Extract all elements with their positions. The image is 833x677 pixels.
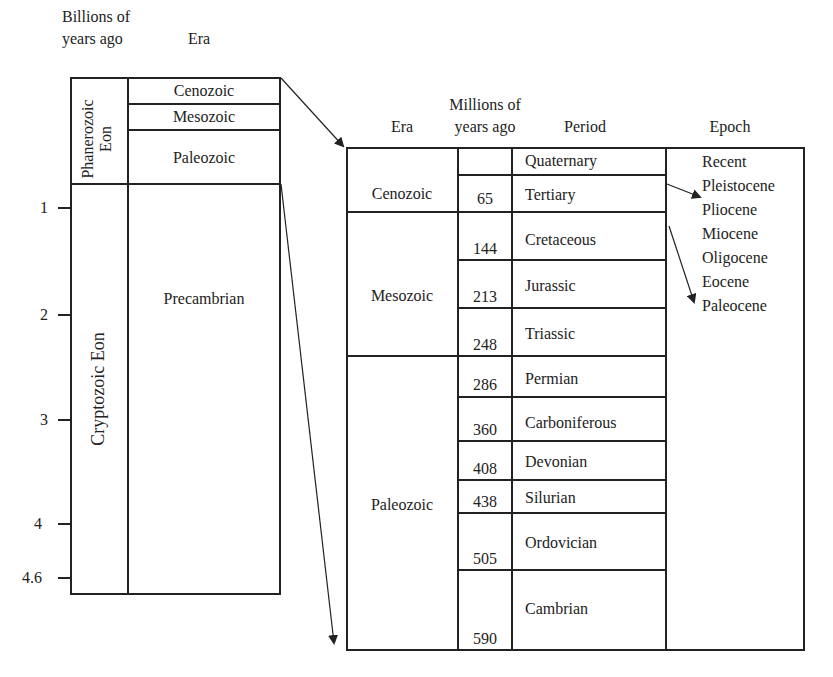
arrow-tertiary-to-paleocene bbox=[669, 226, 694, 302]
arrow-to-table-bottom bbox=[281, 184, 334, 643]
arrow-to-table-top bbox=[281, 78, 343, 146]
arrow-tertiary-to-pleistocene bbox=[667, 184, 700, 197]
connector-arrows bbox=[0, 0, 833, 677]
